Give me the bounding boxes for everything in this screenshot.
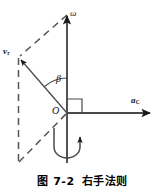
ac-label: aC [131,96,140,106]
vector-diagram [0,0,165,170]
right-angle-marker [67,99,82,113]
ac-subscript: C [136,99,140,105]
omega-label: ω [70,9,76,18]
figure-container: ω vr aC β O 图 7-2右手法则 [0,0,165,195]
beta-label: β [56,74,61,84]
caption-number: 图 7-2 [37,175,74,188]
ac-symbol: a [131,95,136,105]
construction-lines [19,15,68,163]
caption-title: 右手法则 [82,175,128,188]
origin-label: O [52,106,59,116]
figure-caption: 图 7-2右手法则 [0,172,165,188]
vr-vector [21,60,67,113]
vr-label: vr [3,47,10,57]
dashed-top-diagonal [20,15,67,56]
vr-subscript: r [7,50,9,56]
